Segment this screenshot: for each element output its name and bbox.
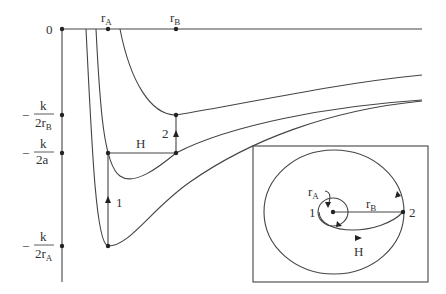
arrow-right-icon [355, 235, 362, 241]
tick-label-k-2rB: − k 2rB [22, 98, 54, 132]
svg-text:k: k [40, 98, 47, 113]
transfer-orbit [319, 212, 403, 230]
rB-axis-label: rB [170, 10, 180, 27]
transfer-label-H: H [136, 136, 145, 151]
arrow-down-icon [325, 202, 331, 208]
tick-label-k-2a: − k 2a [22, 136, 54, 167]
svg-text:k: k [40, 136, 47, 151]
potential-curve-transfer [96, 29, 422, 179]
arrow-up-icon [173, 130, 179, 137]
svg-text:−: − [22, 239, 29, 254]
burn-1-label: 1 [116, 195, 123, 210]
zero-label: 0 [46, 22, 53, 37]
hohmann-transfer-diagram: 0 rA rB − k 2rB − k 2a − k 2rA H 1 2 rA … [0, 0, 446, 294]
inset-rA-label: rA [308, 184, 319, 201]
tick-label-k-2rA: − k 2rA [22, 229, 54, 263]
inset-point-2-label: 2 [409, 205, 416, 220]
rA-axis-label: rA [101, 10, 112, 27]
svg-text:2rA: 2rA [35, 246, 53, 263]
potential-curve-outer [120, 29, 422, 115]
burn-2-label: 2 [162, 126, 169, 141]
inset-transfer-label: H [354, 244, 363, 259]
svg-text:−: − [22, 108, 29, 123]
inset-point-1-label: 1 [309, 205, 316, 220]
inset-rB-label: rB [366, 196, 376, 213]
svg-text:2rB: 2rB [35, 115, 52, 132]
svg-text:k: k [40, 229, 47, 244]
arrow-up-icon [105, 196, 111, 203]
svg-text:−: − [22, 146, 29, 161]
svg-text:2a: 2a [36, 152, 49, 167]
